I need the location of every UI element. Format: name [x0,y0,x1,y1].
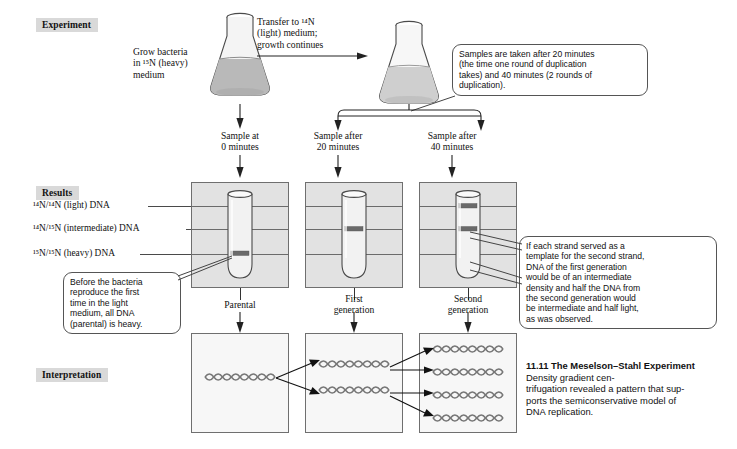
flask-light-medium [374,18,444,106]
section-label-results: Results [36,186,79,200]
semiconservative-callout-leaders [470,232,524,308]
dna-helix-parental-1 [205,371,275,383]
arrow-sample-0 [234,104,246,130]
test-tube-first-generation [338,188,370,282]
parental-callout-leader [178,256,236,282]
sample-label-40: Sample after 40 minutes [411,130,493,153]
generation-label-parental: Parental [200,299,280,310]
dna-helix-second-4 [433,412,503,424]
caption-body: Density gradient cen- trifugation reveal… [526,372,684,418]
arrow-to-results-40 [446,155,458,179]
section-label-experiment: Experiment [36,18,98,32]
transfer-arrow [257,50,369,62]
arrow-to-interp-40 [462,312,474,334]
samples-callout: Samples are taken after 20 minutes (the … [452,44,648,96]
leader-light [148,206,191,207]
replication-arrows-2to3 [390,340,436,424]
meselson-stahl-figure: Experiment Results Interpretation Grow b… [0,0,737,449]
caption-title2: Experiment [644,360,695,371]
caption-title: The Meselson–Stahl [551,360,641,371]
sample-label-0: Sample at 0 minutes [199,130,281,153]
split-bracket [330,104,490,132]
interp-panel-parental [191,333,289,433]
sample-label-20: Sample after 20 minutes [297,130,379,153]
dna-helix-first-1 [319,358,389,370]
dna-helix-second-3 [433,389,503,401]
dna-helix-first-2 [319,384,389,396]
section-label-interpretation: Interpretation [36,368,108,382]
caption-number: 11.11 [526,360,548,371]
transfer-label: Transfer to ¹⁴N (light) medium; growth c… [257,16,363,50]
semiconservative-callout: If each strand served as a template for … [519,236,717,329]
arrow-to-interp-20 [348,312,360,334]
grow-bacteria-label: Grow bacteria in ¹⁵N (heavy) medium [133,46,205,80]
dna-helix-second-2 [433,366,503,378]
density-label-heavy: ¹⁵N/¹⁵N (heavy) DNA [33,248,115,258]
density-label-light: ¹⁴N/¹⁴N (light) DNA [33,200,110,210]
dna-helix-second-1 [433,343,503,355]
replication-arrows-1to2 [276,357,322,399]
leader-heavy [140,254,191,255]
arrow-to-results-0 [234,155,246,179]
arrow-to-results-20 [332,155,344,179]
arrow-to-interp-0 [234,312,246,334]
density-label-intermediate: ¹⁴N/¹⁵N (intermediate) DNA [33,223,139,233]
parental-heavy-callout: Before the bacteria reproduce the first … [63,272,181,334]
figure-caption: 11.11 The Meselson–Stahl Experiment Dens… [526,360,726,418]
